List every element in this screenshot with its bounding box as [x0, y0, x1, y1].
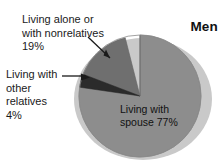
slice-label-living-with-spouse-line1: Living with — [120, 103, 178, 116]
callout-living-alone-line2: with nonrelatives — [22, 27, 104, 41]
callout-other-relatives-line2: other — [6, 82, 57, 96]
callout-living-alone-line1: Living alone or — [22, 13, 104, 27]
slice-label-living-with-spouse-line2: spouse 77% — [120, 116, 178, 129]
callout-other-relatives: Living with other relatives 4% — [6, 68, 57, 122]
callout-other-relatives-line1: Living with — [6, 68, 57, 82]
pie-chart-figure: Men Living alone or with nonrelatives 19… — [0, 0, 224, 167]
callout-living-alone-value: 19% — [22, 40, 104, 54]
callout-other-relatives-line3: relatives — [6, 95, 57, 109]
slice-label-living-with-spouse: Living with spouse 77% — [120, 103, 178, 129]
callout-living-alone: Living alone or with nonrelatives 19% — [22, 13, 104, 54]
chart-title: Men — [190, 19, 218, 34]
callout-other-relatives-value: 4% — [6, 109, 57, 123]
